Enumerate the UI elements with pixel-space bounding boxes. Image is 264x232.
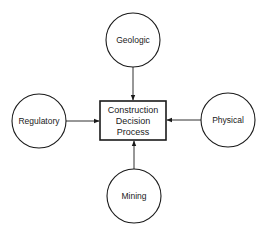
box-line-3: Process bbox=[117, 127, 150, 137]
box-line-1: Construction bbox=[108, 105, 159, 115]
diagram-canvas: Geologic Regulatory Physical Mining Cons… bbox=[0, 0, 264, 232]
node-geologic: Geologic bbox=[106, 13, 160, 67]
node-regulatory: Regulatory bbox=[12, 94, 66, 148]
regulatory-label: Regulatory bbox=[18, 116, 60, 126]
geologic-label: Geologic bbox=[116, 35, 150, 45]
center-decision-box: Construction Decision Process bbox=[100, 101, 166, 140]
mining-label: Mining bbox=[121, 191, 146, 201]
node-mining: Mining bbox=[107, 169, 161, 223]
box-line-2: Decision bbox=[116, 116, 151, 126]
node-physical: Physical bbox=[201, 93, 255, 147]
physical-label: Physical bbox=[212, 115, 244, 125]
